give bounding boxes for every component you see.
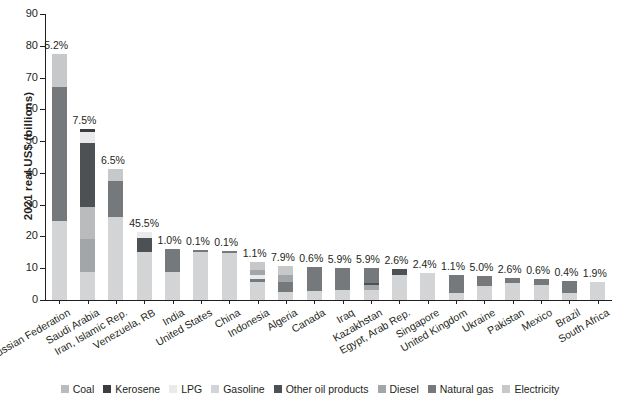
bar-segment[interactable] — [108, 169, 123, 181]
bar-group[interactable] — [505, 14, 520, 300]
x-axis-tick-mark — [513, 300, 514, 304]
bar-group[interactable] — [193, 14, 208, 300]
legend-item[interactable]: Electricity — [502, 383, 559, 395]
bar-percent-label: 1.0% — [158, 234, 182, 246]
bar-segment[interactable] — [562, 281, 577, 293]
bar-segment[interactable] — [364, 290, 379, 300]
x-axis-tick-mark — [541, 300, 542, 304]
bar-percent-label: 2.6% — [498, 263, 522, 275]
bar-segment[interactable] — [137, 238, 152, 252]
x-axis-tick-mark — [484, 300, 485, 304]
bar-segment[interactable] — [477, 286, 492, 300]
legend-swatch-icon — [502, 385, 510, 393]
bar-percent-label: 7.5% — [73, 114, 97, 126]
bar-group[interactable] — [534, 14, 549, 300]
bar-segment[interactable] — [80, 272, 95, 300]
y-axis-tick-label: 70 — [4, 71, 38, 83]
bar-segment[interactable] — [193, 252, 208, 300]
bar-segment[interactable] — [562, 293, 577, 300]
bar-group[interactable] — [222, 14, 237, 300]
bar-segment[interactable] — [80, 207, 95, 239]
legend-label: Electricity — [514, 383, 559, 395]
bar-percent-label: 1.9% — [583, 267, 607, 279]
bar-segment[interactable] — [193, 250, 208, 253]
x-axis-tick-mark — [173, 300, 174, 304]
bar-segment[interactable] — [250, 279, 265, 282]
bar-segment[interactable] — [137, 252, 152, 300]
bar-segment[interactable] — [250, 270, 265, 275]
bar-segment[interactable] — [590, 282, 605, 300]
bar-segment[interactable] — [335, 290, 350, 300]
bar-segment[interactable] — [278, 292, 293, 300]
bar-group[interactable] — [52, 14, 67, 300]
bar-group[interactable] — [590, 14, 605, 300]
bar-segment[interactable] — [449, 293, 464, 300]
y-axis-tick-label: 90 — [4, 7, 38, 19]
bar-segment[interactable] — [108, 217, 123, 300]
bar-segment[interactable] — [165, 249, 180, 273]
bar-percent-label: 45.5% — [129, 217, 159, 229]
bar-segment[interactable] — [534, 279, 549, 285]
bar-segment[interactable] — [307, 267, 322, 291]
y-axis-tick-label: 30 — [4, 198, 38, 210]
x-axis-tick-mark — [116, 300, 117, 304]
bar-segment[interactable] — [80, 129, 95, 132]
bar-segment[interactable] — [278, 266, 293, 275]
bar-group[interactable] — [80, 14, 95, 300]
bar-segment[interactable] — [52, 221, 67, 300]
y-axis-tick-label: 60 — [4, 102, 38, 114]
x-axis-tick-mark — [399, 300, 400, 304]
bar-segment[interactable] — [80, 143, 95, 208]
bar-segment[interactable] — [108, 181, 123, 217]
bar-segment[interactable] — [505, 278, 520, 283]
bar-segment[interactable] — [52, 87, 67, 220]
bar-percent-label: 0.6% — [526, 264, 550, 276]
bar-segment[interactable] — [477, 276, 492, 286]
bar-group[interactable] — [477, 14, 492, 300]
bar-segment[interactable] — [505, 283, 520, 300]
bar-segment[interactable] — [278, 275, 293, 282]
bar-segment[interactable] — [449, 275, 464, 293]
bar-segment[interactable] — [80, 132, 95, 143]
bar-percent-label: 0.1% — [214, 236, 238, 248]
bar-segment[interactable] — [80, 239, 95, 272]
bar-segment[interactable] — [392, 269, 407, 274]
bar-group[interactable] — [449, 14, 464, 300]
bar-segment[interactable] — [307, 291, 322, 300]
bar-segment[interactable] — [364, 285, 379, 289]
bar-segment[interactable] — [364, 268, 379, 282]
bar-segment[interactable] — [420, 273, 435, 300]
bar-segment[interactable] — [534, 285, 549, 300]
bar-group[interactable] — [420, 14, 435, 300]
bar-segment[interactable] — [137, 232, 152, 238]
x-axis-tick-mark — [598, 300, 599, 304]
bar-segment[interactable] — [250, 282, 265, 300]
bar-percent-label: 6.5% — [101, 154, 125, 166]
x-axis-tick-mark — [201, 300, 202, 304]
x-axis-tick-mark — [456, 300, 457, 304]
bar-segment[interactable] — [250, 275, 265, 279]
x-axis-tick-mark — [229, 300, 230, 304]
bar-percent-label: 5.2% — [44, 39, 68, 51]
bar-segment[interactable] — [364, 283, 379, 286]
y-axis-tick-label: 40 — [4, 166, 38, 178]
y-axis-tick-label: 0 — [4, 293, 38, 305]
stacked-bar-chart: 2021 real US$ (billions) 010203040506070… — [0, 0, 620, 407]
bar-group[interactable] — [137, 14, 152, 300]
bar-percent-label: 0.4% — [554, 266, 578, 278]
bar-segment[interactable] — [250, 262, 265, 270]
bar-segment[interactable] — [165, 272, 180, 300]
bar-segment[interactable] — [222, 251, 237, 253]
bar-segment[interactable] — [222, 253, 237, 300]
bar-percent-label: 1.1% — [243, 247, 267, 259]
bar-segment[interactable] — [335, 268, 350, 291]
bar-segment[interactable] — [392, 275, 407, 300]
bar-group[interactable] — [562, 14, 577, 300]
x-axis-tick-mark — [428, 300, 429, 304]
x-axis-tick-mark — [371, 300, 372, 304]
bar-segment[interactable] — [52, 54, 67, 87]
x-axis-tick-mark — [258, 300, 259, 304]
bar-segment[interactable] — [278, 282, 293, 292]
bar-percent-label: 1.1% — [441, 260, 465, 272]
bar-group[interactable] — [165, 14, 180, 300]
